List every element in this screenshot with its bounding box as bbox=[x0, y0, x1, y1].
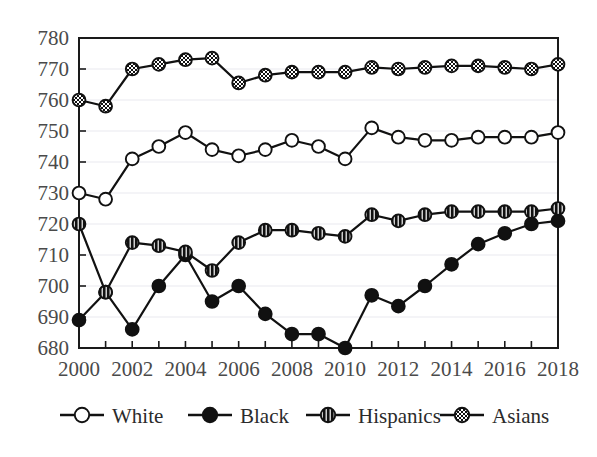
data-point bbox=[232, 280, 245, 293]
data-point bbox=[312, 227, 325, 240]
legend-label: White bbox=[112, 404, 163, 428]
data-point bbox=[126, 153, 139, 166]
legend-entry-hispanics[interactable]: Hispanics bbox=[306, 404, 441, 428]
data-point bbox=[179, 246, 192, 259]
data-point bbox=[552, 215, 565, 228]
data-point bbox=[498, 227, 511, 240]
legend-marker-filled-circle bbox=[203, 408, 217, 422]
data-point bbox=[312, 328, 325, 341]
data-point bbox=[206, 295, 219, 308]
data-point bbox=[73, 187, 86, 200]
data-point bbox=[445, 258, 458, 271]
legend-label: Black bbox=[240, 404, 289, 428]
y-tick-label: 710 bbox=[38, 243, 70, 267]
data-point bbox=[179, 126, 192, 139]
data-point bbox=[392, 300, 405, 313]
data-point bbox=[365, 122, 378, 135]
series-hispanics bbox=[73, 202, 565, 299]
data-point bbox=[419, 134, 432, 147]
data-point bbox=[232, 149, 245, 162]
data-point bbox=[472, 238, 485, 251]
data-point bbox=[259, 69, 272, 82]
chart-container: 780770760750740730720710700690680 200020… bbox=[0, 0, 597, 457]
legend-marker-vertical-stripe-circle bbox=[321, 408, 335, 422]
data-point bbox=[312, 66, 325, 79]
data-point bbox=[339, 66, 352, 79]
y-tick-label: 730 bbox=[38, 181, 70, 205]
data-point bbox=[445, 60, 458, 73]
x-tick-label: 2014 bbox=[431, 357, 474, 381]
x-axis-labels: 2000200220042006200820102012201420162018 bbox=[58, 357, 579, 381]
data-point bbox=[552, 58, 565, 71]
series-asians bbox=[73, 52, 565, 113]
data-point bbox=[525, 218, 538, 231]
x-tick-label: 2016 bbox=[484, 357, 526, 381]
legend-label: Asians bbox=[492, 404, 549, 428]
data-point bbox=[525, 131, 538, 144]
series-line bbox=[79, 128, 558, 199]
data-point bbox=[259, 224, 272, 237]
legend-marker-crosshatch-circle bbox=[455, 408, 469, 422]
legend-entry-asians[interactable]: Asians bbox=[440, 404, 549, 428]
data-point bbox=[73, 94, 86, 107]
data-point bbox=[126, 323, 139, 336]
data-point bbox=[126, 236, 139, 249]
data-point bbox=[152, 140, 165, 153]
data-point bbox=[472, 205, 485, 218]
data-point bbox=[419, 208, 432, 221]
data-point bbox=[365, 61, 378, 74]
series-line bbox=[79, 209, 558, 293]
data-point bbox=[99, 100, 112, 113]
y-tick-label: 780 bbox=[38, 26, 70, 50]
y-tick-label: 760 bbox=[38, 88, 70, 112]
data-point bbox=[498, 131, 511, 144]
data-point bbox=[552, 202, 565, 215]
data-point bbox=[285, 66, 298, 79]
y-tick-label: 720 bbox=[38, 212, 70, 236]
data-point bbox=[206, 52, 219, 65]
legend-entry-black[interactable]: Black bbox=[188, 404, 289, 428]
data-point bbox=[206, 264, 219, 277]
x-tick-label: 2004 bbox=[164, 357, 207, 381]
data-point bbox=[206, 143, 219, 156]
x-tick-label: 2000 bbox=[58, 357, 100, 381]
data-point bbox=[365, 208, 378, 221]
y-tick-label: 750 bbox=[38, 119, 70, 143]
data-point bbox=[285, 134, 298, 147]
y-axis-labels: 780770760750740730720710700690680 bbox=[38, 26, 70, 360]
gridlines bbox=[79, 69, 558, 317]
x-tick-label: 2018 bbox=[537, 357, 579, 381]
x-tick-label: 2006 bbox=[218, 357, 260, 381]
data-point bbox=[472, 60, 485, 73]
x-tick-label: 2010 bbox=[324, 357, 366, 381]
data-point bbox=[419, 61, 432, 74]
data-point bbox=[339, 230, 352, 243]
legend-entry-white[interactable]: White bbox=[60, 404, 163, 428]
data-point bbox=[232, 236, 245, 249]
data-point bbox=[73, 314, 86, 327]
data-point bbox=[152, 239, 165, 252]
legend-marker-open-circle bbox=[75, 408, 89, 422]
data-point bbox=[312, 140, 325, 153]
data-point bbox=[339, 342, 352, 355]
data-point bbox=[365, 289, 378, 302]
y-tick-label: 770 bbox=[38, 57, 70, 81]
y-tick-label: 700 bbox=[38, 274, 70, 298]
chart-legend: WhiteBlackHispanicsAsians bbox=[60, 404, 549, 428]
legend-label: Hispanics bbox=[358, 404, 441, 428]
data-point bbox=[259, 143, 272, 156]
data-point bbox=[126, 63, 139, 76]
data-point bbox=[73, 218, 86, 231]
data-point bbox=[472, 131, 485, 144]
data-point bbox=[552, 126, 565, 139]
x-tick-label: 2002 bbox=[111, 357, 153, 381]
data-point bbox=[152, 58, 165, 71]
y-tick-label: 690 bbox=[38, 305, 70, 329]
data-point bbox=[232, 77, 245, 90]
data-point bbox=[285, 224, 298, 237]
data-point bbox=[392, 215, 405, 228]
x-tick-label: 2008 bbox=[271, 357, 313, 381]
data-point bbox=[445, 205, 458, 218]
data-point bbox=[99, 286, 112, 299]
data-point bbox=[99, 193, 112, 206]
